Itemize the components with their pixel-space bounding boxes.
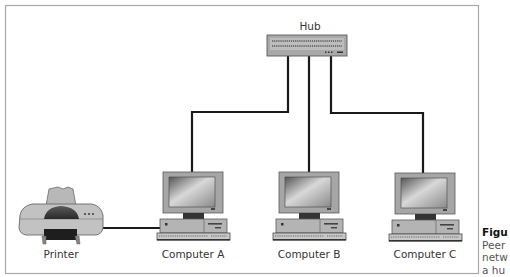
figure-caption-line: netw	[482, 251, 508, 263]
network-diagram: Hub Printer Computer A Computer B	[0, 0, 510, 277]
computer-a-label: Computer A	[162, 248, 226, 260]
computer-c-label: Computer C	[394, 248, 457, 260]
hub-label: Hub	[299, 20, 321, 32]
printer-label: Printer	[44, 248, 80, 260]
figure-caption-line: a hu	[482, 264, 505, 276]
printer-icon	[19, 187, 103, 244]
figure-caption-line: Peer	[482, 239, 506, 251]
computer-b-label: Computer B	[278, 248, 341, 260]
computer-icon	[389, 173, 462, 242]
printer-device	[19, 187, 103, 244]
computer-a-device	[157, 172, 230, 241]
cable-hub-computer-c	[331, 55, 423, 173]
hub-device	[267, 35, 347, 56]
computer-b-device	[273, 172, 346, 241]
cables	[102, 55, 423, 228]
computer-c-device	[389, 173, 462, 242]
figure-caption-title: Figu	[482, 226, 508, 238]
cable-hub-computer-a	[192, 55, 288, 173]
computer-icon	[273, 172, 346, 241]
computer-icon	[157, 172, 230, 241]
